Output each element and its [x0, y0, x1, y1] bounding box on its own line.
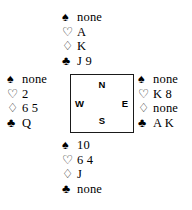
hand-east-hearts: K 8 [151, 87, 172, 102]
heart-icon: ♡ [62, 25, 75, 40]
hand-west: ♠ none ♡ 2 ♢ 6 5 ♣ Q [7, 72, 47, 130]
hand-west-clubs: Q [20, 116, 31, 131]
hand-north-spades-row: ♠ none [62, 10, 102, 25]
hand-east: ♠ none ♡ K 8 ♢ none ♣ A K [138, 72, 178, 130]
hand-east-diamonds-row: ♢ none [138, 101, 178, 116]
hand-west-diamonds-row: ♢ 6 5 [7, 101, 47, 116]
heart-icon: ♡ [7, 87, 20, 102]
club-icon: ♣ [62, 54, 75, 69]
compass-box: N W E S [70, 74, 134, 133]
hand-south: ♠ 10 ♡ 6 4 ♢ J ♣ none [62, 138, 102, 196]
spade-icon: ♠ [62, 138, 75, 153]
hand-west-hearts-row: ♡ 2 [7, 87, 47, 102]
hand-west-spades-row: ♠ none [7, 72, 47, 87]
hand-west-spades: none [20, 72, 47, 87]
hand-north-hearts: A [75, 25, 86, 40]
spade-icon: ♠ [138, 72, 151, 87]
hand-north-diamonds-row: ♢ K [62, 39, 102, 54]
diamond-icon: ♢ [62, 167, 75, 182]
hand-east-spades: none [151, 72, 178, 87]
hand-south-spades: 10 [75, 138, 90, 153]
compass-label-south: S [71, 116, 133, 126]
hand-south-hearts-row: ♡ 6 4 [62, 153, 102, 168]
hand-south-diamonds-row: ♢ J [62, 167, 102, 182]
diamond-icon: ♢ [7, 101, 20, 116]
hand-east-clubs: A K [151, 116, 174, 131]
hand-north: ♠ none ♡ A ♢ K ♣ J 9 [62, 10, 102, 68]
hand-east-hearts-row: ♡ K 8 [138, 87, 178, 102]
hand-north-hearts-row: ♡ A [62, 25, 102, 40]
hand-south-spades-row: ♠ 10 [62, 138, 102, 153]
spade-icon: ♠ [7, 72, 20, 87]
hand-west-clubs-row: ♣ Q [7, 116, 47, 131]
club-icon: ♣ [138, 116, 151, 131]
hand-north-diamonds: K [75, 39, 86, 54]
compass-label-east: E [122, 99, 128, 109]
heart-icon: ♡ [138, 87, 151, 102]
diamond-icon: ♢ [62, 39, 75, 54]
hand-south-clubs-row: ♣ none [62, 182, 102, 197]
diamond-icon: ♢ [138, 101, 151, 116]
compass-label-west: W [75, 99, 84, 109]
hand-north-spades: none [75, 10, 102, 25]
club-icon: ♣ [62, 182, 75, 197]
club-icon: ♣ [7, 116, 20, 131]
hand-east-spades-row: ♠ none [138, 72, 178, 87]
hand-south-clubs: none [75, 182, 102, 197]
bridge-hand-diagram: ♠ none ♡ A ♢ K ♣ J 9 ♠ none ♡ 2 ♢ 6 5 [0, 0, 192, 210]
hand-west-hearts: 2 [20, 87, 28, 102]
spade-icon: ♠ [62, 10, 75, 25]
hand-north-clubs-row: ♣ J 9 [62, 54, 102, 69]
hand-east-diamonds: none [151, 101, 178, 116]
heart-icon: ♡ [62, 153, 75, 168]
hand-south-hearts: 6 4 [75, 153, 93, 168]
hand-north-clubs: J 9 [75, 54, 92, 69]
hand-west-diamonds: 6 5 [20, 101, 38, 116]
compass-label-north: N [71, 80, 133, 90]
hand-east-clubs-row: ♣ A K [138, 116, 178, 131]
hand-south-diamonds: J [75, 167, 82, 182]
